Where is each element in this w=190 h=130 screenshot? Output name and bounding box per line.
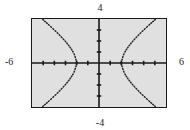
plot-canvas [32,19,166,107]
y-max-label: 4 [5,3,190,13]
axis-layer [32,19,166,107]
graph-figure: 4 -6 6 -4 [0,0,190,130]
curve-right-branch-lower [121,62,156,107]
curve-left-branch-upper [42,19,77,64]
curve-right-branch-upper [121,19,156,64]
x-min-label: -6 [5,57,13,67]
x-max-label: 6 [179,57,184,67]
y-min-label: -4 [5,118,190,128]
curve-left-branch-lower [42,62,77,107]
plot-frame [31,18,167,108]
